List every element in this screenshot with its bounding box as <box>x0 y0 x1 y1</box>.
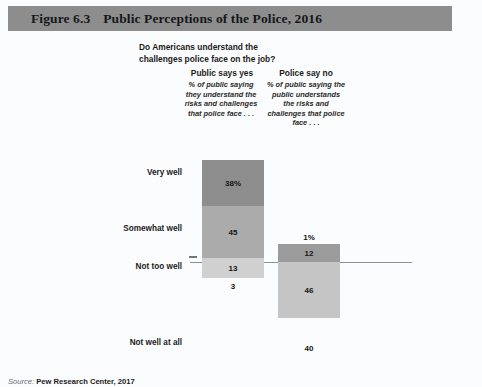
bar-segment-right-somewhat-well: 12 <box>278 244 340 262</box>
row-label-very-well: Very well <box>72 168 182 177</box>
figure-title: Public Perceptions of the Police, 2016 <box>103 11 322 27</box>
bar-value-left-not-well-at-all: 3 <box>202 282 264 291</box>
figure-header-bar: Figure 6.3 Public Perceptions of the Pol… <box>8 6 452 31</box>
bar-segment-left-somewhat-well: 45 <box>202 206 264 258</box>
column-subtitle-police-say-no: % of public saying the public understand… <box>266 80 346 128</box>
source-note: Source: Pew Research Center, 2017 <box>8 377 135 386</box>
chart-question: Do Americans understand the challenges p… <box>139 42 369 65</box>
source-text: Pew Research Center, 2017 <box>36 377 134 386</box>
chart-question-line-1: Do Americans understand the <box>139 42 369 54</box>
bar-segment-left-very-well: 38% <box>202 160 264 206</box>
bar-value-right-very-well: 1% <box>278 233 340 242</box>
chart-question-line-2: challenges police face on the job? <box>139 54 369 66</box>
column-header-public-says-yes: Public says yes <box>180 68 264 78</box>
bar-value-right-not-well-at-all: 40 <box>278 344 340 353</box>
column-header-police-say-no: Police say no <box>264 68 348 78</box>
bar-segment-left-not-too-well: 13 <box>202 258 264 278</box>
figure-page: { "figure": { "number": "Figure 6.3", "t… <box>0 0 482 387</box>
row-label-not-well-at-all: Not well at all <box>72 338 182 347</box>
row-label-somewhat-well: Somewhat well <box>72 224 182 233</box>
row-label-not-too-well: Not too well <box>72 262 182 271</box>
axis-tick-mark <box>189 256 197 258</box>
column-subtitle-public-says-yes: % of public saying they understand the r… <box>182 80 260 118</box>
bar-segment-right-not-too-well: 46 <box>278 262 340 318</box>
source-label: Source: <box>8 377 34 386</box>
figure-number: Figure 6.3 <box>31 11 90 27</box>
